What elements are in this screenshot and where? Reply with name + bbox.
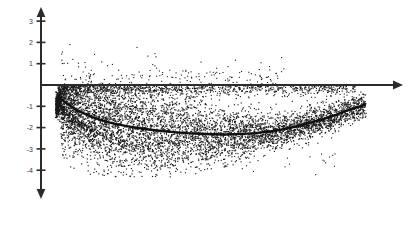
data-point	[139, 91, 140, 92]
data-point	[115, 128, 116, 129]
data-point	[224, 126, 225, 127]
data-point	[261, 112, 262, 113]
data-point	[252, 144, 253, 145]
data-point	[209, 123, 210, 124]
data-point	[248, 145, 249, 146]
data-point	[289, 123, 290, 124]
data-point	[348, 118, 349, 119]
data-point-outlier	[289, 164, 290, 165]
data-point	[109, 119, 110, 120]
data-point-outlier	[176, 72, 177, 73]
data-point	[142, 151, 143, 152]
data-point	[181, 90, 182, 91]
data-point	[258, 89, 259, 90]
data-point	[328, 87, 329, 88]
data-point	[153, 122, 154, 123]
data-point	[100, 125, 101, 126]
data-point	[110, 114, 111, 115]
data-point	[133, 137, 134, 138]
data-point	[175, 152, 176, 153]
data-point	[347, 91, 348, 92]
data-point	[195, 107, 196, 108]
data-point	[122, 97, 123, 98]
data-point	[258, 120, 259, 121]
data-point	[247, 136, 248, 137]
data-point	[78, 126, 79, 127]
data-point	[196, 96, 197, 97]
data-point	[177, 92, 178, 93]
data-point	[88, 87, 89, 88]
data-point	[282, 123, 283, 124]
data-point	[188, 157, 189, 158]
data-point	[303, 92, 304, 93]
data-point	[101, 61, 102, 62]
data-point	[179, 134, 180, 135]
data-point	[169, 102, 170, 103]
data-point	[354, 89, 355, 90]
data-point	[205, 136, 206, 137]
data-point	[92, 128, 93, 129]
data-point	[267, 93, 268, 94]
data-point	[194, 121, 195, 122]
data-point	[85, 100, 86, 101]
data-point-outlier	[241, 71, 242, 72]
data-point	[305, 89, 306, 90]
data-point	[240, 128, 241, 129]
data-point	[105, 126, 106, 127]
data-point	[161, 142, 162, 143]
data-point	[175, 129, 176, 130]
data-point	[316, 110, 317, 111]
data-point	[243, 139, 244, 140]
data-point	[300, 94, 301, 95]
data-point	[279, 87, 280, 88]
data-point	[198, 159, 199, 160]
data-point	[95, 102, 96, 103]
data-point	[208, 147, 209, 148]
data-point	[131, 121, 132, 122]
data-point	[148, 90, 149, 91]
data-point	[130, 111, 131, 112]
data-point	[315, 132, 316, 133]
data-point	[269, 144, 270, 145]
data-point	[150, 126, 151, 127]
data-point	[264, 134, 265, 135]
data-point	[198, 153, 199, 154]
data-point	[219, 117, 220, 118]
data-point-outlier	[233, 82, 234, 83]
data-point	[193, 145, 194, 146]
data-point	[161, 156, 162, 157]
data-point	[178, 138, 179, 139]
data-point-outlier	[225, 166, 226, 167]
data-point	[161, 90, 162, 91]
data-point	[72, 138, 73, 139]
data-point	[316, 88, 317, 89]
data-point	[240, 96, 241, 97]
data-point	[286, 142, 287, 143]
data-point	[354, 118, 355, 119]
data-point	[181, 93, 182, 94]
data-point	[114, 112, 115, 113]
data-point	[345, 104, 346, 105]
data-point	[142, 112, 143, 113]
data-point	[244, 126, 245, 127]
data-point	[58, 106, 59, 107]
data-point	[61, 121, 62, 122]
data-point	[136, 115, 137, 116]
data-point	[140, 145, 141, 146]
data-point	[201, 120, 202, 121]
data-point	[128, 149, 129, 150]
data-point	[154, 133, 155, 134]
data-point	[148, 137, 149, 138]
data-point	[287, 142, 288, 143]
data-point	[214, 156, 215, 157]
data-point	[197, 114, 198, 115]
data-point	[277, 121, 278, 122]
data-point	[178, 124, 179, 125]
data-point	[112, 93, 113, 94]
data-point	[218, 148, 219, 149]
data-point	[107, 160, 108, 161]
data-point	[251, 116, 252, 117]
data-point-outlier	[211, 83, 212, 84]
data-point	[130, 128, 131, 129]
data-point	[228, 155, 229, 156]
